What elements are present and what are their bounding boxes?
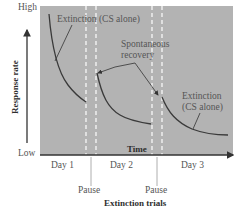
annotation-extinction-day3-line2: (CS alone) <box>182 102 223 112</box>
pause-label-2: Pause <box>145 185 167 195</box>
annotation-extinction-day1: Extinction (CS alone) <box>57 14 140 24</box>
y-axis-label: Response rate <box>10 57 20 117</box>
annotation-recovery-line2: recovery <box>121 50 154 60</box>
day-2-label: Day 2 <box>110 160 133 170</box>
y-tick-high: High <box>18 2 37 12</box>
x-axis-label: Extinction trials <box>104 198 166 208</box>
y-tick-low: Low <box>18 148 35 158</box>
time-label: Time <box>127 144 147 154</box>
day-3-label: Day 3 <box>181 160 204 170</box>
pause-label-1: Pause <box>78 185 100 195</box>
annotation-recovery-line1: Spontaneous <box>121 39 170 49</box>
annotation-extinction-day3-line1: Extinction <box>182 91 222 101</box>
day-1-label: Day 1 <box>51 160 74 170</box>
